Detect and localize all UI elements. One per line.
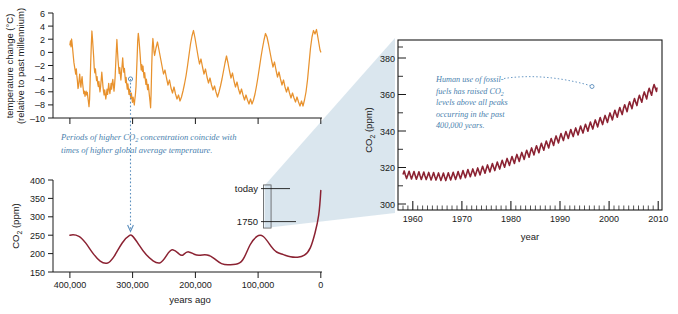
ytick-temp-0: 6 xyxy=(40,9,45,19)
xtick-keeling-0: 1960 xyxy=(403,214,423,224)
ytick-temp-8: –10 xyxy=(30,114,45,124)
keeling-annotation-line2: fuels has raised CO2 xyxy=(436,87,504,97)
keeling-annotation-line3: levels above all peaks xyxy=(436,98,508,107)
xtick-co2long-2: 200,000 xyxy=(179,280,212,290)
ytick-co2long-4: 200 xyxy=(30,249,45,259)
ytick-temp-7: –8 xyxy=(35,100,45,110)
xtick-co2long-3: 100,000 xyxy=(242,280,275,290)
keeling-x-axis-label: year xyxy=(521,231,539,242)
co2long-y-axis-label: CO2 (ppm) xyxy=(10,203,23,249)
ytick-temp-4: –2 xyxy=(35,61,45,71)
figure-canvas: 6 4 2 0 –2 –4 –6 –8 –10 temperature chan… xyxy=(0,0,678,314)
keeling-annotation-line5: 400,000 years. xyxy=(436,121,484,130)
callout-today-label: today xyxy=(235,183,258,194)
ytick-temp-5: –4 xyxy=(35,74,45,84)
xtick-keeling-3: 1990 xyxy=(550,214,570,224)
xtick-keeling-5: 2010 xyxy=(648,214,668,224)
ytick-co2long-2: 300 xyxy=(30,212,45,222)
climate-co2-temperature-figure: 6 4 2 0 –2 –4 –6 –8 –10 temperature chan… xyxy=(0,0,678,314)
temperature-y-axis-label-line1: temperature change (°C) xyxy=(4,14,15,119)
ytick-keeling-2: 340 xyxy=(380,127,395,137)
ytick-co2long-1: 350 xyxy=(30,194,45,204)
keeling-annotation-line1: Human use of fossil- xyxy=(435,75,504,84)
co2long-x-axis-label: years ago xyxy=(169,294,211,305)
xtick-co2long-1: 300,000 xyxy=(116,280,149,290)
ytick-co2long-3: 250 xyxy=(30,231,45,241)
keeling-y-axis-label: CO2 (ppm) xyxy=(363,107,376,153)
xtick-co2long-0: 400,000 xyxy=(54,280,87,290)
xtick-keeling-1: 1970 xyxy=(452,214,472,224)
keeling-annotation-line4: occurring in the past xyxy=(436,110,505,119)
ytick-temp-1: 4 xyxy=(40,22,45,32)
temperature-annotation-line2: times of higher global average temperatu… xyxy=(61,145,212,155)
callout-1750-label: 1750 xyxy=(237,216,258,227)
xtick-co2long-4: 0 xyxy=(318,280,323,290)
ytick-temp-6: –6 xyxy=(35,87,45,97)
ytick-co2long-0: 400 xyxy=(30,176,45,186)
xtick-keeling-4: 2000 xyxy=(599,214,619,224)
ytick-temp-2: 2 xyxy=(40,35,45,45)
ytick-keeling-0: 380 xyxy=(380,54,395,64)
temperature-annotation-line1: Periods of higher CO2 concentration coin… xyxy=(60,132,236,143)
ytick-keeling-3: 320 xyxy=(380,163,395,173)
ytick-temp-3: 0 xyxy=(40,48,45,58)
xtick-keeling-2: 1980 xyxy=(501,214,521,224)
ytick-co2long-5: 150 xyxy=(30,268,45,278)
ytick-keeling-4: 300 xyxy=(380,200,395,210)
temperature-y-axis-label-line2: (relative to past millennium) xyxy=(15,8,26,124)
ytick-keeling-1: 360 xyxy=(380,90,395,100)
